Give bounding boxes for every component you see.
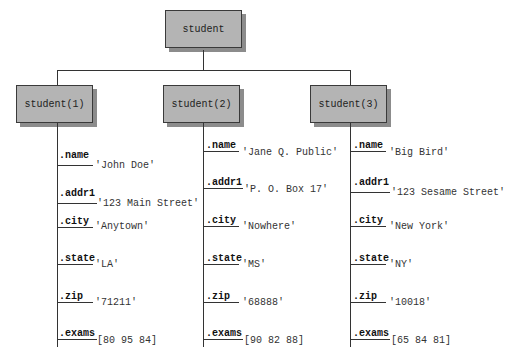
field-city-value: 'Nowhere'	[242, 222, 296, 232]
node-label: student(1)	[24, 99, 84, 110]
field-addr1-label: .addr1	[353, 178, 389, 188]
root-node-student: student	[165, 10, 242, 48]
connector-student-1	[57, 70, 58, 85]
field-zip-label: .zip	[206, 292, 230, 302]
field-name-value: 'Big Bird'	[389, 148, 449, 158]
field-underline	[203, 302, 239, 303]
field-zip-label: .zip	[59, 292, 83, 302]
field-city-label: .city	[206, 216, 236, 226]
field-city-label: .city	[353, 216, 383, 226]
field-state-value: 'MS'	[242, 260, 266, 270]
field-addr1-label: .addr1	[206, 178, 242, 188]
field-underline	[203, 339, 243, 340]
field-zip-label: .zip	[353, 292, 377, 302]
field-underline	[350, 302, 386, 303]
field-state-label: .state	[59, 254, 95, 264]
root-node-label: student	[182, 24, 224, 35]
node-student-2: student(2)	[163, 85, 240, 123]
field-state-label: .state	[206, 254, 242, 264]
root-connector	[203, 50, 204, 70]
field-name-label: .name	[59, 151, 89, 161]
field-underline	[203, 226, 239, 227]
field-underline	[350, 226, 386, 227]
node-student-3: student(3)	[310, 85, 387, 123]
field-exams-value: [80 95 84]	[97, 336, 157, 346]
horizontal-connector	[57, 70, 351, 71]
trunk-student-3	[350, 123, 351, 347]
field-exams-value: [90 82 88]	[244, 336, 304, 346]
field-city-value: 'Anytown'	[95, 222, 149, 232]
node-label: student(3)	[318, 99, 378, 110]
field-underline	[57, 165, 93, 166]
field-exams-label: .exams	[353, 329, 389, 339]
field-underline	[350, 339, 390, 340]
field-underline	[350, 192, 390, 193]
field-exams-value: [65 84 81]	[391, 336, 451, 346]
field-name-value: 'Jane Q. Public'	[242, 148, 338, 158]
field-name-value: 'John Doe'	[95, 161, 155, 171]
field-addr1-value: '123 Sesame Street'	[391, 188, 505, 198]
trunk-student-1	[57, 123, 58, 347]
field-underline	[57, 302, 93, 303]
field-underline	[203, 151, 239, 152]
field-state-value: 'NY'	[389, 260, 413, 270]
field-underline	[57, 339, 97, 340]
field-underline	[203, 188, 243, 189]
field-name-label: .name	[353, 141, 383, 151]
field-underline	[350, 264, 386, 265]
field-addr1-label: .addr1	[59, 189, 95, 199]
field-state-value: 'LA'	[95, 260, 119, 270]
field-underline	[350, 151, 386, 152]
trunk-student-2	[203, 123, 204, 347]
field-exams-label: .exams	[59, 329, 95, 339]
field-zip-value: '71211'	[95, 298, 137, 308]
field-underline	[57, 264, 93, 265]
node-student-1: student(1)	[16, 85, 93, 123]
field-city-value: 'New York'	[389, 222, 449, 232]
field-addr1-value: 'P. O. Box 17'	[244, 185, 328, 195]
connector-student-3	[350, 70, 351, 85]
field-name-label: .name	[206, 141, 236, 151]
field-underline	[203, 264, 239, 265]
field-exams-label: .exams	[206, 329, 242, 339]
field-city-label: .city	[59, 217, 89, 227]
field-underline	[57, 203, 97, 204]
field-addr1-value: '123 Main Street'	[97, 199, 199, 209]
field-zip-value: '10018'	[389, 298, 431, 308]
node-label: student(2)	[171, 99, 231, 110]
field-underline	[57, 227, 93, 228]
field-zip-value: '68888'	[242, 298, 284, 308]
field-state-label: .state	[353, 254, 389, 264]
